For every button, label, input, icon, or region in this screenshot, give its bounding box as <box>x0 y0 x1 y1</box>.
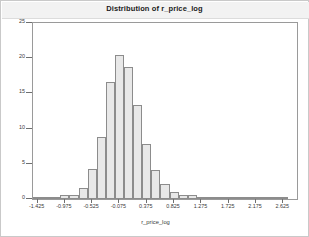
x-axis-tick-label: 0.375 <box>133 204 159 209</box>
y-axis-tick <box>26 163 32 164</box>
y-axis-tick-label: 20 <box>3 54 25 59</box>
histogram-bar <box>270 197 279 199</box>
x-axis-tick-label: 1.275 <box>187 204 213 209</box>
bars-layer <box>33 23 297 199</box>
page-title: Distribution of r_price_log <box>1 4 308 13</box>
histogram-bar <box>188 195 197 199</box>
histogram-bar <box>215 197 224 199</box>
histogram-bar <box>133 105 142 199</box>
histogram-bar <box>51 197 60 199</box>
histogram-bar <box>88 169 97 199</box>
x-axis-title: r_price_log <box>1 219 309 225</box>
y-axis-tick-label: 5 <box>3 160 25 165</box>
y-axis-tick <box>26 92 32 93</box>
histogram-bar <box>151 170 160 199</box>
x-axis-tick-label: -0.975 <box>51 204 77 209</box>
histogram-bar <box>160 184 169 199</box>
x-axis-tick-label: -1.425 <box>24 204 50 209</box>
histogram-bar <box>42 197 51 199</box>
y-axis-tick <box>26 22 32 23</box>
histogram-bar <box>251 197 260 199</box>
histogram-bar <box>124 67 133 199</box>
x-axis-tick-label: 2.625 <box>269 204 295 209</box>
x-axis-tick-label: -0.525 <box>78 204 104 209</box>
histogram-bar <box>79 188 88 199</box>
histogram-bar <box>233 197 242 199</box>
plot-area <box>32 22 298 200</box>
histogram-bar <box>142 144 151 199</box>
histogram-figure: Distribution of r_price_log Percent r_pr… <box>0 0 309 237</box>
x-axis-tick-label: 2.175 <box>242 204 268 209</box>
x-axis-tick-label: 0.825 <box>160 204 186 209</box>
histogram-bar <box>33 197 42 199</box>
y-axis-tick <box>26 57 32 58</box>
y-axis-tick <box>26 128 32 129</box>
histogram-bar <box>206 197 215 199</box>
histogram-bar <box>242 197 251 199</box>
histogram-bar <box>69 195 78 199</box>
histogram-bar <box>197 197 206 199</box>
histogram-bar <box>106 82 115 199</box>
y-axis-tick-label: 25 <box>3 19 25 24</box>
histogram-bar <box>179 195 188 199</box>
y-axis-tick <box>26 198 32 199</box>
histogram-bar <box>261 197 270 199</box>
y-axis-tick-label: 15 <box>3 89 25 94</box>
x-axis-tick-label: 1.725 <box>215 204 241 209</box>
histogram-bar <box>97 137 106 199</box>
y-axis-tick-label: 10 <box>3 125 25 130</box>
x-axis-tick-label: -0.075 <box>105 204 131 209</box>
histogram-bar <box>279 197 288 199</box>
y-axis-tick-label: 0 <box>3 195 25 200</box>
histogram-bar <box>115 55 124 199</box>
histogram-bar <box>170 192 179 199</box>
